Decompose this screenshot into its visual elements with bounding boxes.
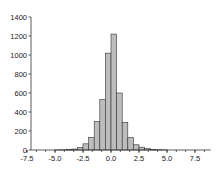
histogram-bar bbox=[100, 100, 106, 150]
histogram-bar bbox=[139, 147, 145, 150]
histogram-chart: 0200400600800100012001400 -7.5-5.0-2.50.… bbox=[0, 0, 223, 174]
x-tick-label: -7.5 bbox=[21, 154, 34, 163]
y-tick-label: 400 bbox=[14, 108, 27, 117]
x-tick-label: 5.0 bbox=[162, 154, 172, 163]
histogram-bar bbox=[117, 93, 123, 150]
x-tick-label: 2.5 bbox=[134, 154, 144, 163]
y-tick-label: 600 bbox=[14, 89, 27, 98]
x-tick-label: -2.5 bbox=[77, 154, 90, 163]
y-tick-label: 800 bbox=[14, 70, 27, 79]
x-axis: -7.5-5.0-2.50.02.55.07.5 bbox=[21, 150, 211, 163]
x-tick-label: -5.0 bbox=[49, 154, 62, 163]
histogram-bar bbox=[83, 144, 89, 150]
histogram-bar bbox=[111, 34, 117, 150]
y-axis: 0200400600800100012001400 bbox=[10, 13, 31, 155]
histogram-bars bbox=[55, 34, 167, 150]
histogram-bar bbox=[105, 53, 111, 150]
y-tick-label: 1400 bbox=[10, 13, 27, 22]
histogram-bar bbox=[128, 138, 134, 150]
histogram-bar bbox=[89, 138, 95, 150]
x-tick-label: 7.5 bbox=[190, 154, 200, 163]
histogram-bar bbox=[94, 122, 100, 151]
y-tick-label: 1000 bbox=[10, 51, 27, 60]
histogram-bar bbox=[122, 122, 128, 150]
y-tick-label: 200 bbox=[14, 127, 27, 136]
x-tick-label: 0.0 bbox=[106, 154, 116, 163]
histogram-bar bbox=[133, 145, 139, 150]
y-tick-label: 1200 bbox=[10, 32, 27, 41]
